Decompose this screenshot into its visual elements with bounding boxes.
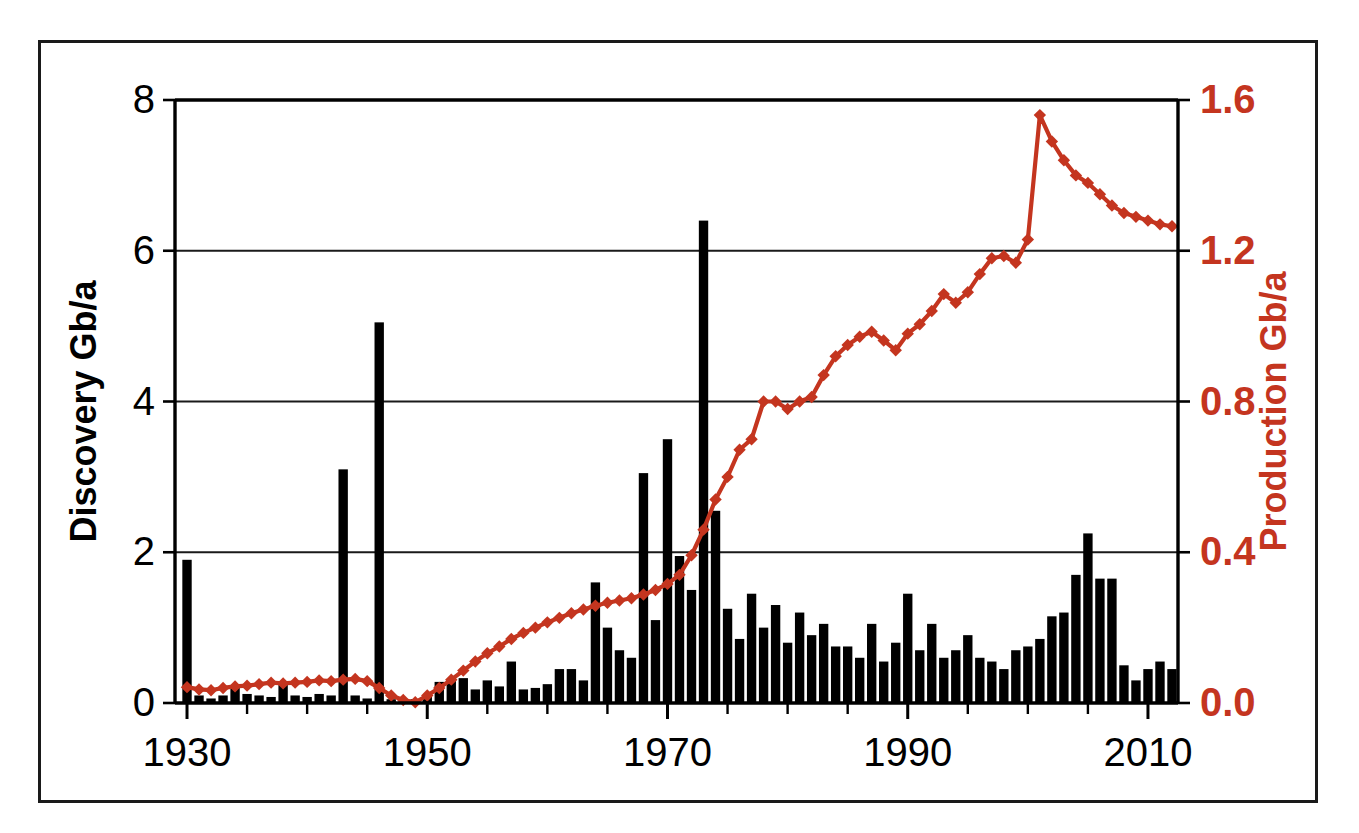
discovery-production-chart: 024680.00.40.81.21.619301950197019902010… — [0, 0, 1359, 833]
discovery-bar — [1119, 665, 1128, 703]
x-tick-label: 1930 — [143, 730, 232, 774]
discovery-bar — [795, 613, 804, 703]
discovery-bar — [1071, 575, 1080, 703]
discovery-bar — [927, 624, 936, 703]
discovery-bar — [723, 609, 732, 703]
discovery-bar — [663, 439, 672, 703]
right-axis-label: Production Gb/a — [1253, 271, 1294, 552]
discovery-bar — [999, 669, 1008, 703]
discovery-bar — [879, 662, 888, 703]
y2-tick-label: 1.2 — [1200, 228, 1256, 272]
production-marker — [625, 592, 637, 604]
discovery-bar — [338, 469, 347, 703]
discovery-bar — [891, 643, 900, 703]
discovery-bar — [1047, 616, 1056, 703]
discovery-bar — [375, 322, 384, 703]
discovery-bar — [483, 680, 492, 703]
discovery-bar — [735, 639, 744, 703]
gridlines — [175, 100, 1178, 552]
production-marker — [289, 676, 301, 688]
discovery-bar — [1167, 669, 1176, 703]
y2-tick-label: 0.0 — [1200, 680, 1256, 724]
y-tick-label: 6 — [133, 228, 155, 272]
production-marker — [313, 674, 325, 686]
discovery-bar — [915, 650, 924, 703]
y2-tick-label: 1.6 — [1200, 77, 1256, 121]
production-marker — [541, 616, 553, 628]
production-marker — [265, 676, 277, 688]
y-tick-label: 0 — [133, 680, 155, 724]
production-marker — [1142, 214, 1154, 226]
production-marker — [757, 395, 769, 407]
y-tick-label: 8 — [133, 77, 155, 121]
production-marker — [1034, 109, 1046, 121]
discovery-bar — [939, 658, 948, 703]
x-tick-label: 2010 — [1103, 730, 1192, 774]
production-marker — [1130, 211, 1142, 223]
production-marker — [565, 607, 577, 619]
production-marker — [253, 678, 265, 690]
discovery-bar — [903, 594, 912, 703]
discovery-bar — [1155, 662, 1164, 703]
discovery-bar — [855, 658, 864, 703]
discovery-bar — [1107, 579, 1116, 703]
production-marker — [301, 676, 313, 688]
production-marker — [241, 679, 253, 691]
figure-canvas: 024680.00.40.81.21.619301950197019902010… — [0, 0, 1359, 833]
x-tick-label: 1990 — [863, 730, 952, 774]
production-marker — [553, 612, 565, 624]
discovery-bar — [975, 658, 984, 703]
discovery-bar — [579, 680, 588, 703]
discovery-bar — [507, 662, 516, 703]
production-marker — [193, 683, 205, 695]
discovery-bar — [963, 635, 972, 703]
discovery-bar — [531, 688, 540, 703]
discovery-bar — [459, 678, 468, 703]
discovery-bar — [771, 605, 780, 703]
discovery-bar — [1059, 613, 1068, 703]
production-marker — [529, 621, 541, 633]
discovery-bar — [603, 628, 612, 703]
discovery-bar — [831, 646, 840, 703]
discovery-bar — [1023, 646, 1032, 703]
discovery-bar — [543, 684, 552, 703]
discovery-bar — [519, 689, 528, 703]
production-marker — [349, 673, 361, 685]
discovery-bar — [567, 669, 576, 703]
y-tick-label: 2 — [133, 529, 155, 573]
discovery-bar — [1131, 680, 1140, 703]
left-axis-label: Discovery Gb/a — [63, 279, 104, 542]
discovery-bar — [1143, 669, 1152, 703]
discovery-bar — [987, 662, 996, 703]
discovery-bar — [651, 620, 660, 703]
discovery-bar — [867, 624, 876, 703]
discovery-bar — [1083, 533, 1092, 703]
discovery-bar — [627, 658, 636, 703]
x-tick-label: 1970 — [623, 730, 712, 774]
y-tick-label: 4 — [133, 379, 155, 423]
production-marker — [325, 675, 337, 687]
production-marker — [217, 682, 229, 694]
production-marker — [205, 684, 217, 696]
discovery-bar — [951, 650, 960, 703]
discovery-bar — [1011, 650, 1020, 703]
discovery-bars — [182, 221, 1176, 703]
discovery-bar — [819, 624, 828, 703]
discovery-bar — [639, 473, 648, 703]
y2-tick-label: 0.8 — [1200, 379, 1256, 423]
discovery-bar — [807, 635, 816, 703]
production-marker — [1154, 218, 1166, 230]
production-marker — [577, 603, 589, 615]
discovery-bar — [471, 689, 480, 703]
discovery-bar — [615, 650, 624, 703]
discovery-bar — [843, 646, 852, 703]
production-marker — [601, 597, 613, 609]
discovery-bar — [783, 643, 792, 703]
discovery-bar — [699, 221, 708, 703]
y2-tick-label: 0.4 — [1200, 529, 1256, 573]
discovery-bar — [1035, 639, 1044, 703]
discovery-bar — [711, 511, 720, 703]
discovery-bar — [687, 590, 696, 703]
production-marker — [613, 594, 625, 606]
discovery-bar — [555, 669, 564, 703]
